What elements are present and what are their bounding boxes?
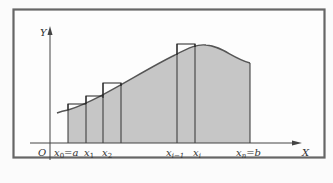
origin-label: O — [38, 147, 46, 158]
x-axis-label: X — [301, 147, 310, 158]
riemann-sum-diagram: Y X O x0=a x1 x2 xi−1 xi xn=b — [0, 0, 333, 183]
